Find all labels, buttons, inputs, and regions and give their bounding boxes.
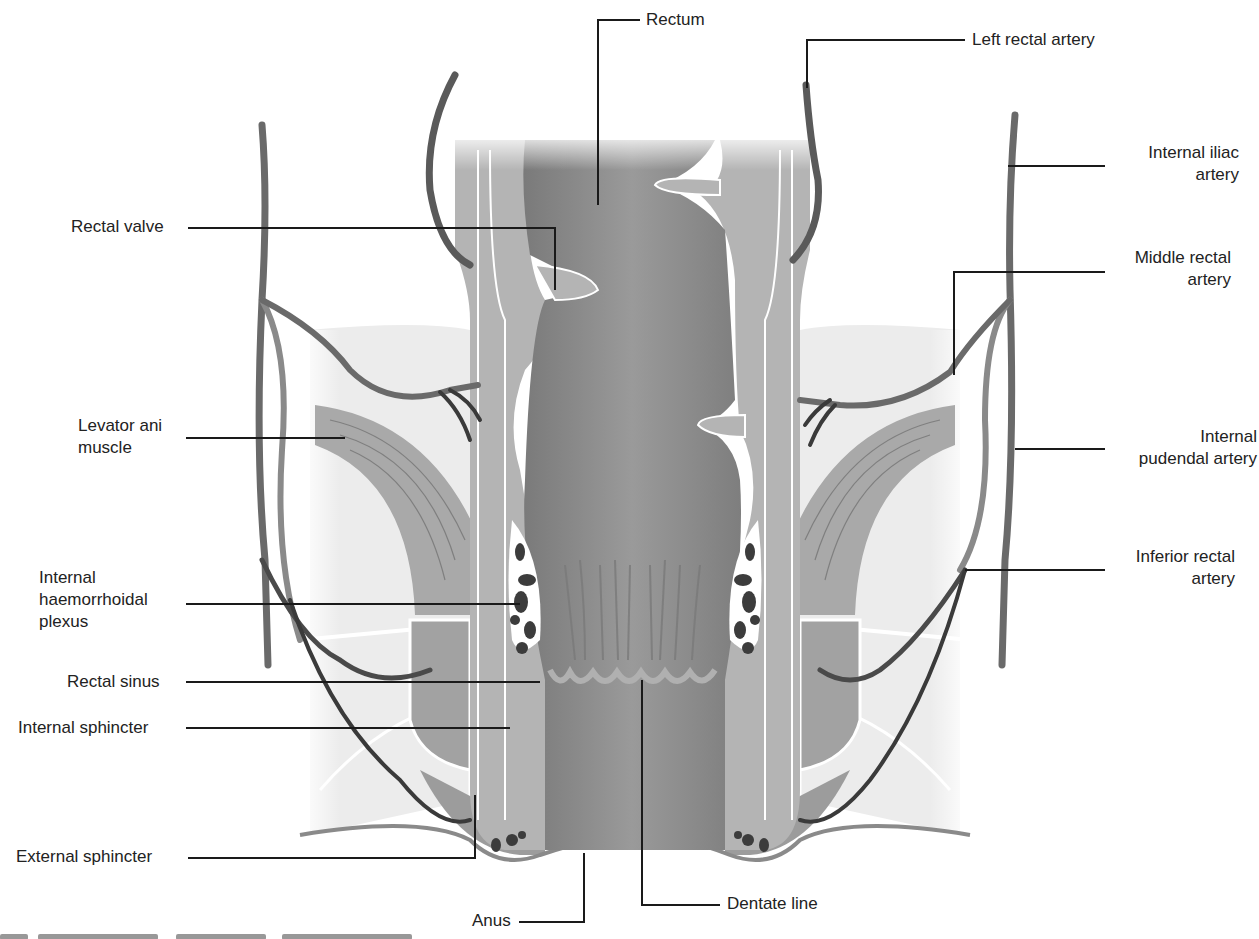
- label-internal-sphincter: Internal sphincter: [18, 717, 148, 739]
- label-rectum: Rectum: [646, 9, 705, 31]
- caption-fragment: [38, 934, 158, 939]
- label-left-rectal-artery: Left rectal artery: [972, 29, 1095, 51]
- label-middle-rectal-artery: Middle rectal artery: [1135, 247, 1231, 291]
- caption-fragment: [176, 934, 266, 939]
- label-internal-haemorrhoidal-plexus: Internal haemorrhoidal plexus: [39, 567, 148, 633]
- anatomy-illustration: [0, 0, 1259, 939]
- label-rectal-valve: Rectal valve: [71, 216, 164, 238]
- caption-fragment: [282, 934, 412, 939]
- label-levator-ani-muscle: Levator ani muscle: [78, 415, 162, 459]
- label-dentate-line: Dentate line: [727, 893, 818, 915]
- caption-fragment: [0, 934, 28, 939]
- label-internal-pudendal-artery: Internal pudendal artery: [1139, 426, 1257, 470]
- label-external-sphincter: External sphincter: [16, 846, 152, 868]
- label-internal-iliac-artery: Internal iliac artery: [1148, 142, 1239, 186]
- label-inferior-rectal-artery: Inferior rectal artery: [1136, 546, 1235, 590]
- label-anus: Anus: [472, 910, 511, 932]
- figure-caption-clipped: [0, 928, 440, 939]
- rectum-anatomy-diagram: Rectum Left rectal artery Internal iliac…: [0, 0, 1259, 939]
- label-rectal-sinus: Rectal sinus: [67, 671, 160, 693]
